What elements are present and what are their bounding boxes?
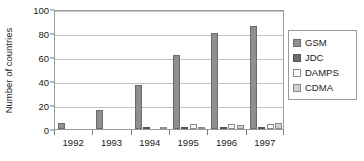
bar-gsm-1992	[58, 123, 65, 129]
bar-jdc-1995	[181, 127, 188, 129]
x-axis-tick-label: 1995	[178, 137, 199, 148]
bar-cdma-1996	[237, 125, 244, 129]
legend-item-cdma[interactable]: CDMA	[293, 80, 352, 95]
bar-gsm-1994	[135, 85, 142, 129]
x-axis-tick-label: 1994	[139, 137, 160, 148]
x-axis-tick-label: 1992	[63, 137, 84, 148]
x-axis-tick-mark	[54, 130, 55, 135]
legend-label: GSM	[305, 38, 327, 48]
bar-gsm-1995	[173, 55, 180, 129]
x-axis-tick-labels: 199219931994199519961997	[54, 137, 284, 153]
y-axis-tick-label: 80	[38, 29, 49, 40]
x-axis-tick-mark	[246, 130, 247, 135]
legend: GSMJDCDAMPSCDMA	[288, 30, 357, 100]
plot-area	[54, 10, 284, 130]
bar-cluster	[247, 11, 284, 129]
x-axis-tick-label: 1996	[216, 137, 237, 148]
y-axis-tick-labels: 020406080100	[16, 10, 54, 130]
x-axis-tick-mark	[169, 130, 170, 135]
bar-gsm-1997	[250, 26, 257, 129]
bar-damps-1995	[190, 124, 197, 129]
legend-label: JDC	[305, 53, 323, 63]
bar-cdma-1997	[275, 123, 282, 129]
legend-label: CDMA	[305, 83, 333, 93]
bar-chart: Number of countries 020406080100 1992199…	[0, 0, 364, 161]
bar-jdc-1994	[143, 127, 150, 129]
legend-swatch-jdc-icon	[293, 54, 301, 62]
bar-jdc-1996	[220, 127, 227, 129]
bar-gsm-1996	[211, 33, 218, 129]
bar-damps-1997	[267, 124, 274, 129]
bars-layer	[55, 11, 283, 129]
y-axis-tick-label: 100	[33, 5, 49, 16]
legend-item-gsm[interactable]: GSM	[293, 35, 352, 50]
x-axis-tick-mark	[283, 130, 284, 135]
legend-swatch-cdma-icon	[293, 84, 301, 92]
x-axis-tick-label: 1993	[101, 137, 122, 148]
bar-cdma-1994	[160, 127, 167, 129]
bar-cdma-1995	[198, 127, 205, 129]
bar-jdc-1997	[258, 127, 265, 129]
y-axis-tick-label: 0	[44, 125, 49, 136]
x-axis-tick-mark	[207, 130, 208, 135]
bar-cluster	[132, 11, 170, 129]
legend-item-damps[interactable]: DAMPS	[293, 65, 352, 80]
legend-label: DAMPS	[305, 68, 339, 78]
x-axis-tick-label: 1997	[254, 137, 275, 148]
x-axis-tick-marks	[54, 130, 284, 135]
y-axis-title-text: Number of countries	[4, 27, 15, 113]
legend-swatch-gsm-icon	[293, 39, 301, 47]
legend-swatch-damps-icon	[293, 69, 301, 77]
bar-gsm-1993	[96, 110, 103, 129]
bar-damps-1996	[228, 124, 235, 129]
bar-cluster	[93, 11, 131, 129]
y-axis-tick-label: 60	[38, 53, 49, 64]
bar-cluster	[170, 11, 208, 129]
x-axis-tick-mark	[131, 130, 132, 135]
x-axis-tick-mark	[92, 130, 93, 135]
bar-cluster	[208, 11, 246, 129]
y-axis-tick-label: 40	[38, 77, 49, 88]
bar-cluster	[55, 11, 93, 129]
y-axis-tick-label: 20	[38, 101, 49, 112]
legend-item-jdc[interactable]: JDC	[293, 50, 352, 65]
